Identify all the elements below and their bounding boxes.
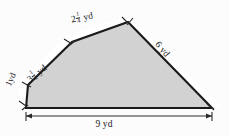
side-unit-top: yd [82,10,93,22]
bottom-dimension-line [26,112,212,121]
side-value-bottom: 9 [95,119,100,129]
side-unit-bottom: yd [103,119,113,129]
fraction-denominator: 4 [77,18,82,24]
side-label-bottom: 9 yd [95,120,112,130]
polygon-shape [26,22,212,108]
geometry-figure: 1yd 312 yd 214 yd 6 yd 9 yd [0,0,229,136]
